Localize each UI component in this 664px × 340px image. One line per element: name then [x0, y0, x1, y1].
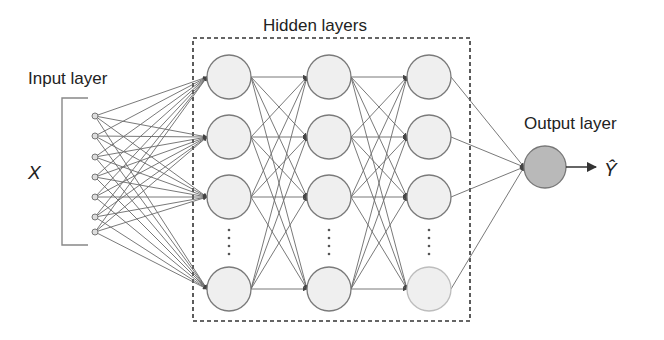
input-node [92, 174, 98, 180]
edge [95, 77, 207, 157]
input-node [92, 229, 98, 235]
ellipsis-dot [228, 229, 231, 232]
hidden-layers-label: Hidden layers [263, 16, 367, 35]
hidden-node [407, 267, 451, 311]
edge [95, 77, 207, 116]
edge [95, 77, 207, 232]
input-node [92, 194, 98, 200]
input-node [92, 214, 98, 220]
input-node [92, 113, 98, 119]
ellipsis-dot [328, 245, 331, 248]
ellipsis-dot [428, 253, 431, 256]
hidden-node [307, 267, 351, 311]
hidden-node [307, 55, 351, 99]
input-node [92, 133, 98, 139]
input-node [92, 154, 98, 160]
output-variable-label: Ŷ [604, 159, 618, 180]
ellipsis-dot [428, 237, 431, 240]
hidden-node [307, 115, 351, 159]
hidden-node [407, 175, 451, 219]
hidden-node [207, 175, 251, 219]
edge [451, 137, 524, 167]
output-node [524, 146, 566, 188]
input-layer-label: Input layer [28, 69, 108, 88]
edge [451, 77, 524, 167]
ellipsis-dot [328, 229, 331, 232]
ellipsis-dot [328, 253, 331, 256]
edge [95, 77, 207, 217]
ellipsis-dot [228, 245, 231, 248]
bracket-line [62, 98, 88, 245]
hidden-node [207, 55, 251, 99]
edge [95, 217, 207, 289]
hidden-node [307, 175, 351, 219]
edge [95, 197, 207, 289]
edge [451, 167, 524, 289]
hidden-node [207, 267, 251, 311]
ellipsis-dot [228, 253, 231, 256]
hidden-node [407, 115, 451, 159]
ellipsis-dot [228, 237, 231, 240]
ellipsis-dot [328, 237, 331, 240]
nodes [92, 55, 566, 311]
output-layer-label: Output layer [524, 114, 617, 133]
edge [95, 197, 207, 217]
ellipsis-dot [428, 229, 431, 232]
input-bracket [62, 98, 88, 245]
hidden-node [207, 115, 251, 159]
ellipsis-dot [428, 245, 431, 248]
edge [95, 137, 207, 177]
hidden-node [407, 55, 451, 99]
edge [451, 167, 524, 197]
input-variable-label: X [27, 162, 42, 183]
edge [95, 232, 207, 289]
edge [95, 136, 207, 289]
connections [95, 77, 524, 289]
neural-network-diagram: Input layer Hidden layers Output layer X… [0, 0, 664, 340]
